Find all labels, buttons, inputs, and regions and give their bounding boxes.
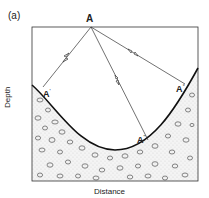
panel-label: (a) <box>8 11 20 21</box>
reflection-point-label-bottom: A" <box>137 134 146 145</box>
seismic-ray-diagram <box>0 0 209 198</box>
gravel-layer <box>32 68 198 181</box>
reflection-point-superscript: " <box>144 134 146 140</box>
source-point-label: A <box>86 14 93 24</box>
x-axis-label: Distance <box>0 188 209 196</box>
reflection-point-superscript: ' <box>50 88 51 94</box>
reflection-point-label-left: A' <box>43 88 51 99</box>
reflection-point-label-right: A° <box>176 83 185 94</box>
two-way-arrow-icons <box>63 49 138 85</box>
reflection-point-superscript: ° <box>183 83 185 89</box>
y-axis-label: Depth <box>4 87 12 108</box>
